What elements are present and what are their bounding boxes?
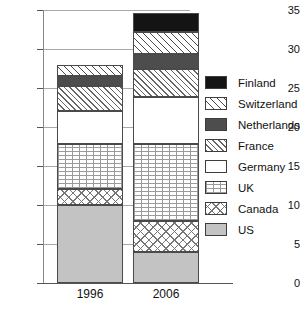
- legend-item-netherlands[interactable]: Netherlands: [205, 114, 297, 135]
- legend-swatch-finland-icon: [205, 76, 227, 89]
- legend-label-switzerland: Switzerland: [238, 98, 297, 110]
- legend-label-uk: UK: [238, 182, 254, 194]
- bar-1996[interactable]: [57, 65, 123, 283]
- bar-segment-uk-2006[interactable]: [134, 144, 198, 220]
- bar-segment-switzerland-1996[interactable]: [58, 65, 122, 77]
- bar-segment-uk-1996[interactable]: [58, 144, 122, 189]
- bar-segment-us-2006[interactable]: [134, 252, 198, 283]
- legend-item-switzerland[interactable]: Switzerland: [205, 93, 297, 114]
- bar-segment-canada-1996[interactable]: [58, 189, 122, 205]
- legend-item-uk[interactable]: UK: [205, 177, 297, 198]
- bar-segment-netherlands-1996[interactable]: [58, 76, 122, 85]
- stacked-bar-chart: 35 30 25 20 15 10 5 0 1996 2006 FinlandS…: [0, 0, 300, 321]
- legend-swatch-france-icon: [205, 139, 227, 152]
- bar-segment-finland-2006[interactable]: [134, 13, 198, 32]
- legend-item-canada[interactable]: Canada: [205, 198, 297, 219]
- x-axis: [43, 283, 233, 284]
- ytick-label-0: 0: [274, 278, 300, 289]
- y-axis: [43, 10, 44, 283]
- xtick-label-2006: 2006: [126, 288, 206, 301]
- gridline-35: [43, 10, 190, 11]
- ytick-label-5: 5: [274, 239, 300, 250]
- bar-segment-germany-2006[interactable]: [134, 97, 198, 144]
- legend-swatch-switzerland-icon: [205, 97, 227, 110]
- legend-item-finland[interactable]: Finland: [205, 72, 297, 93]
- legend-swatch-canada-icon: [205, 202, 227, 215]
- legend-item-france[interactable]: France: [205, 135, 297, 156]
- legend-item-us[interactable]: US: [205, 219, 297, 240]
- bar-segment-germany-1996[interactable]: [58, 111, 122, 144]
- ytick-label-35: 35: [274, 5, 300, 16]
- ytick-label-30: 30: [274, 44, 300, 55]
- bar-2006[interactable]: [133, 13, 199, 283]
- legend-swatch-uk-icon: [205, 181, 227, 194]
- legend-label-germany: Germany: [238, 161, 285, 173]
- legend-swatch-germany-icon: [205, 160, 227, 173]
- legend-label-us: US: [238, 224, 254, 236]
- bar-segment-us-1996[interactable]: [58, 205, 122, 283]
- bar-segment-france-1996[interactable]: [58, 86, 122, 112]
- legend-label-france: France: [238, 140, 274, 152]
- bar-segment-netherlands-2006[interactable]: [134, 54, 198, 70]
- legend-item-germany[interactable]: Germany: [205, 156, 297, 177]
- bar-segment-france-2006[interactable]: [134, 69, 198, 97]
- legend-swatch-netherlands-icon: [205, 118, 227, 131]
- legend-label-canada: Canada: [238, 203, 278, 215]
- legend-label-finland: Finland: [238, 77, 276, 89]
- legend-swatch-us-icon: [205, 223, 227, 236]
- legend: FinlandSwitzerlandNetherlandsFranceGerma…: [205, 72, 297, 240]
- bar-segment-canada-2006[interactable]: [134, 221, 198, 252]
- legend-label-netherlands: Netherlands: [238, 119, 300, 131]
- bar-segment-switzerland-2006[interactable]: [134, 32, 198, 54]
- xtick-label-1996: 1996: [50, 288, 130, 301]
